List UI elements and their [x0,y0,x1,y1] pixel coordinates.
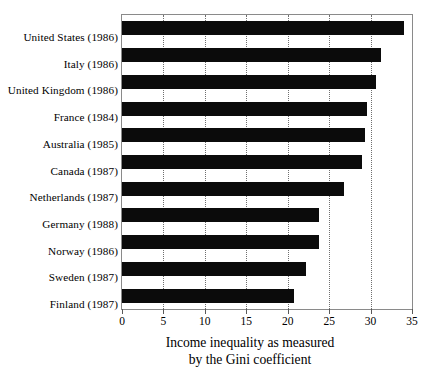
bar [122,21,404,35]
y-axis-label: France (1984) [0,111,118,124]
y-axis-label: Finland (1987) [0,298,118,311]
x-axis-title-line-2: by the Gini coefficient [100,351,400,368]
bar [122,102,367,116]
plot-inner [122,15,412,309]
bar [122,155,362,169]
x-tick-label: 10 [199,315,211,328]
x-tick-label: 15 [241,315,253,328]
x-axis: 05101520253035 [121,309,413,333]
plot-area [121,14,413,310]
bar [122,289,294,303]
bar [122,182,344,196]
x-tick-mark-20 [288,309,289,314]
x-axis-title: Income inequality as measured by the Gin… [100,334,400,368]
x-tick-label: 30 [365,315,377,328]
bar [122,235,319,249]
x-tick-label: 0 [119,315,125,328]
x-tick-label: 25 [323,315,335,328]
y-axis-label: Sweden (1987) [0,271,118,284]
x-tick-label: 35 [406,315,418,328]
x-tick-mark-5 [163,309,164,314]
y-axis-label: United States (1986) [0,31,118,44]
bar [122,48,381,62]
x-tick-label: 5 [161,315,167,328]
bar [122,75,376,89]
x-tick-mark-15 [246,309,247,314]
bar [122,208,319,222]
bar [122,128,365,142]
y-axis-label: Italy (1986) [0,58,118,71]
x-tick-mark-25 [329,309,330,314]
x-axis-title-line-1: Income inequality as measured [100,334,400,351]
bar-chart-figure: United States (1986)Italy (1986)United K… [0,0,439,380]
x-tick-label: 20 [282,315,294,328]
y-axis-label: Germany (1988) [0,218,118,231]
x-tick-mark-0 [122,309,123,314]
y-axis-label-group: United States (1986)Italy (1986)United K… [0,24,118,310]
bar [122,262,306,276]
y-axis-label: Canada (1987) [0,165,118,178]
y-axis-label: Australia (1985) [0,138,118,151]
y-axis-label: Norway (1986) [0,245,118,258]
y-axis-label: United Kingdom (1986) [0,84,118,97]
y-axis-label: Netherlands (1987) [0,191,118,204]
x-tick-mark-10 [205,309,206,314]
x-tick-mark-30 [371,309,372,314]
x-tick-mark-35 [412,309,413,314]
